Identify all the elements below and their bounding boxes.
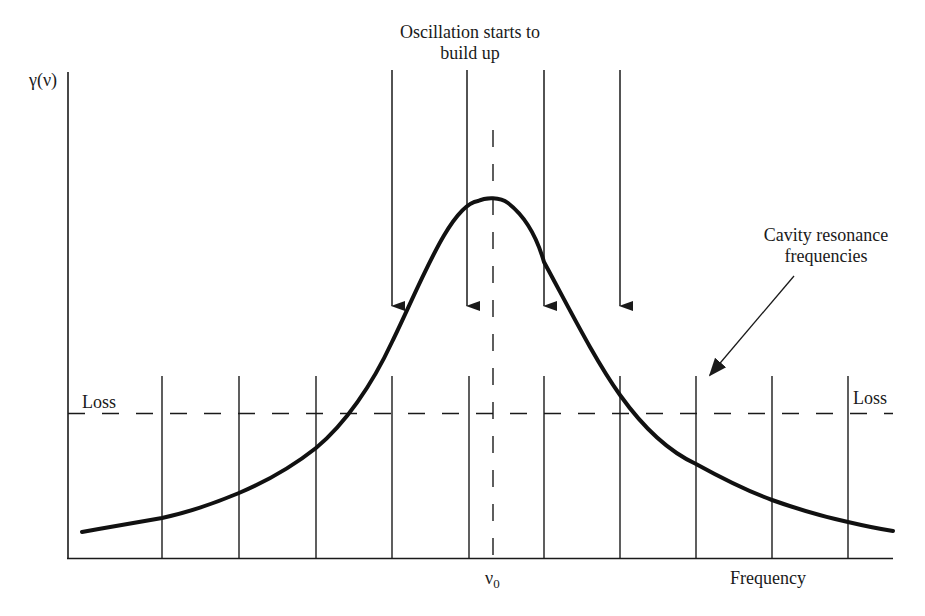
cavity-annotation-line2: frequencies: [738, 246, 914, 267]
gain-diagram: [0, 0, 925, 616]
cavity-annotation-line1: Cavity resonance: [738, 225, 914, 246]
loss-label-right: Loss: [853, 388, 887, 409]
cavity-resonance-lines: [162, 376, 848, 558]
center-frequency-subscript: 0: [493, 576, 500, 591]
x-axis-label: Frequency: [730, 568, 806, 589]
oscillation-annotation-line1: Oscillation starts to: [380, 22, 560, 43]
cavity-annotation: Cavity resonance frequencies: [738, 225, 914, 267]
center-frequency-label: ν0: [485, 568, 500, 594]
loss-label-left: Loss: [82, 392, 116, 413]
oscillation-annotation-line2: build up: [380, 43, 560, 64]
oscillation-annotation: Oscillation starts to build up: [380, 22, 560, 64]
y-axis-label: γ(ν): [29, 70, 57, 91]
center-frequency-symbol: ν: [485, 568, 493, 588]
cavity-annotation-arrow: [710, 276, 794, 375]
